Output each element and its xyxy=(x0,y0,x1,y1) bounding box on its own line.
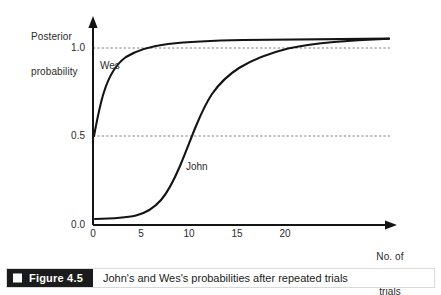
y-axis-title-line2: probability xyxy=(31,66,78,78)
series-label-wes: Wes xyxy=(100,60,120,71)
figure-caption-text: John's and Wes's probabilities after rep… xyxy=(93,269,348,287)
series-curve-john xyxy=(95,39,389,219)
x-tick-label-10: 10 xyxy=(179,228,199,239)
y-axis-title: Posterior probability xyxy=(31,8,78,100)
y-tick-label-1.0: 1.0 xyxy=(57,42,85,53)
chart-plot-area: Posterior probability No. of trials 1.0 … xyxy=(0,0,441,258)
x-axis-title-line1: No. of xyxy=(363,251,417,263)
series-curve-wes xyxy=(94,39,389,136)
figure-number-box: Figure 4.5 xyxy=(7,269,93,287)
figure-4-5: Posterior probability No. of trials 1.0 … xyxy=(0,0,441,295)
x-tick-label-0: 0 xyxy=(83,228,103,239)
y-tick-label-0.5: 0.5 xyxy=(57,130,85,141)
series-label-john: John xyxy=(186,161,208,172)
figure-caption-bar: Figure 4.5 John's and Wes's probabilitie… xyxy=(6,268,435,288)
x-tick-label-20: 20 xyxy=(275,228,295,239)
y-tick-label-0.0: 0.0 xyxy=(57,219,85,230)
x-tick-label-5: 5 xyxy=(131,228,151,239)
figure-number-label: Figure 4.5 xyxy=(29,272,83,284)
y-axis-arrowhead-icon xyxy=(88,16,97,28)
square-marker-icon xyxy=(13,274,22,283)
x-tick-label-15: 15 xyxy=(227,228,247,239)
y-axis-title-line1: Posterior xyxy=(31,31,78,43)
